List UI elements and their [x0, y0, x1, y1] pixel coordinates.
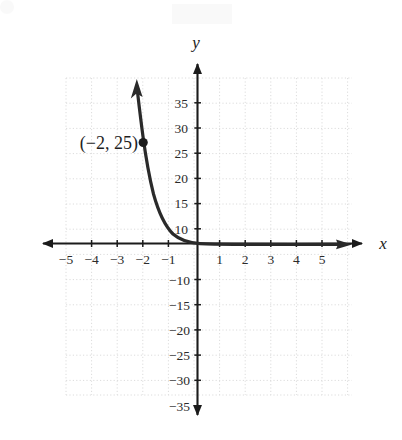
x-tick-label-4: 4 [293, 252, 300, 267]
y-axis-label: y [190, 33, 200, 52]
y-tick-label-neg15: −15 [169, 298, 190, 313]
point-annotation-label: (−2, 25) [80, 133, 138, 154]
y-tick-label-30: 30 [175, 121, 189, 136]
x-axis-label: x [378, 234, 387, 253]
grid-horizontal-lines [66, 78, 352, 395]
y-tick-label-neg30: −30 [169, 373, 190, 388]
curve-path [138, 92, 341, 245]
y-tick-label-20: 20 [175, 171, 189, 186]
x-tick-label-3: 3 [267, 252, 274, 267]
x-tick-label-5: 5 [319, 252, 326, 267]
exponential-curve [131, 79, 352, 249]
y-tick-label-neg10: −10 [169, 273, 190, 288]
y-tick-label-10: 10 [175, 222, 189, 237]
x-tick-label-neg4: −4 [84, 252, 99, 267]
x-tick-label-2: 2 [242, 252, 249, 267]
x-tick-label-neg5: −5 [59, 252, 74, 267]
axis-lines [43, 64, 362, 415]
grid-vertical-lines [66, 78, 348, 395]
y-tick-label-25: 25 [175, 146, 189, 161]
y-tick-label-35: 35 [175, 96, 189, 111]
graph-figure: 35 30 25 20 15 10 −10 −15 −20 −25 −30 −3… [0, 0, 402, 440]
x-tick-label-neg1: −1 [161, 252, 175, 267]
x-tick-label-neg3: −3 [110, 252, 125, 267]
y-tick-label-neg20: −20 [169, 323, 190, 338]
x-tick-label-1: 1 [216, 252, 223, 267]
y-tick-label-neg25: −25 [169, 348, 190, 363]
curve-right-arrowhead-icon [336, 240, 352, 250]
marked-point [139, 138, 148, 147]
grid [66, 78, 352, 395]
x-tick-label-neg2: −2 [136, 252, 150, 267]
y-tick-labels-positive: 35 30 25 20 15 10 [175, 96, 189, 237]
y-tick-labels-negative: −10 −15 −20 −25 −30 −35 [169, 273, 190, 414]
y-tick-label-neg35: −35 [169, 399, 190, 414]
y-tick-label-15: 15 [175, 196, 189, 211]
